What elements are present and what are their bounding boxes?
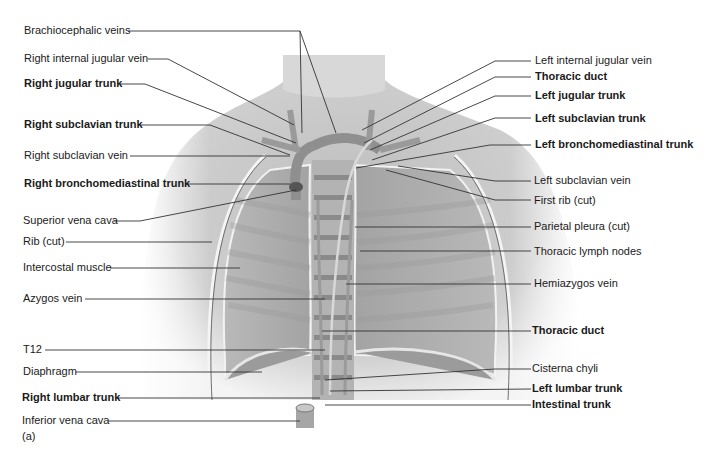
label-thoracic-duct-lower: Thoracic duct (532, 324, 604, 337)
label-left-subclavian-vein: Left subclavian vein (534, 174, 631, 187)
label-thoracic-duct-upper: Thoracic duct (535, 70, 607, 83)
label-left-jugular-trunk: Left jugular trunk (535, 89, 625, 102)
label-rib-cut: Rib (cut) (23, 235, 65, 248)
label-inferior-vena-cava: Inferior vena cava (22, 414, 109, 427)
label-brachiocephalic-veins: Brachiocephalic veins (24, 24, 130, 37)
label-cisterna-chyli: Cisterna chyli (532, 362, 598, 375)
label-thoracic-lymph-nodes: Thoracic lymph nodes (534, 245, 642, 258)
label-right-lumbar-trunk: Right lumbar trunk (22, 391, 120, 404)
label-right-subclavian-vein: Right subclavian vein (24, 149, 128, 162)
label-left-internal-jugular-vein: Left internal jugular vein (535, 54, 652, 67)
label-intestinal-trunk: Intestinal trunk (532, 398, 611, 411)
label-superior-vena-cava: Superior vena cava (23, 214, 118, 227)
label-intercostal-muscle: Intercostal muscle (23, 261, 112, 274)
lymphatic-thorax-diagram: Brachiocephalic veins Right internal jug… (0, 0, 712, 461)
label-right-bronchomediastinal-trunk: Right bronchomediastinal trunk (24, 177, 190, 190)
label-right-jugular-trunk: Right jugular trunk (24, 77, 122, 90)
label-diaphragm: Diaphragm (23, 365, 77, 378)
label-right-internal-jugular-vein: Right internal jugular vein (24, 52, 148, 65)
label-first-rib-cut: First rib (cut) (534, 194, 596, 207)
label-left-lumbar-trunk: Left lumbar trunk (532, 382, 622, 395)
label-t12: T12 (23, 343, 42, 356)
label-parietal-pleura-cut: Parietal pleura (cut) (534, 220, 630, 233)
label-hemiazygos-vein: Hemiazygos vein (534, 277, 618, 290)
panel-label: (a) (22, 430, 35, 443)
label-right-subclavian-trunk: Right subclavian trunk (24, 118, 143, 131)
label-left-subclavian-trunk: Left subclavian trunk (535, 112, 646, 125)
label-azygos-vein: Azygos vein (23, 292, 82, 305)
label-left-bronchomediastinal-trunk: Left bronchomediastinal trunk (535, 138, 693, 151)
